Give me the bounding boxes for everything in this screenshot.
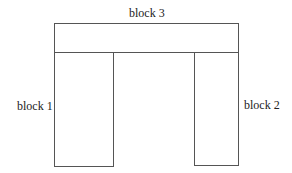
- block-1-rect: [54, 52, 114, 167]
- block-2-label: block 2: [244, 99, 280, 111]
- block-1-label: block 1: [17, 100, 53, 112]
- block-3-label: block 3: [129, 7, 165, 19]
- block-3-rect: [54, 23, 239, 53]
- block-2-rect: [194, 52, 239, 166]
